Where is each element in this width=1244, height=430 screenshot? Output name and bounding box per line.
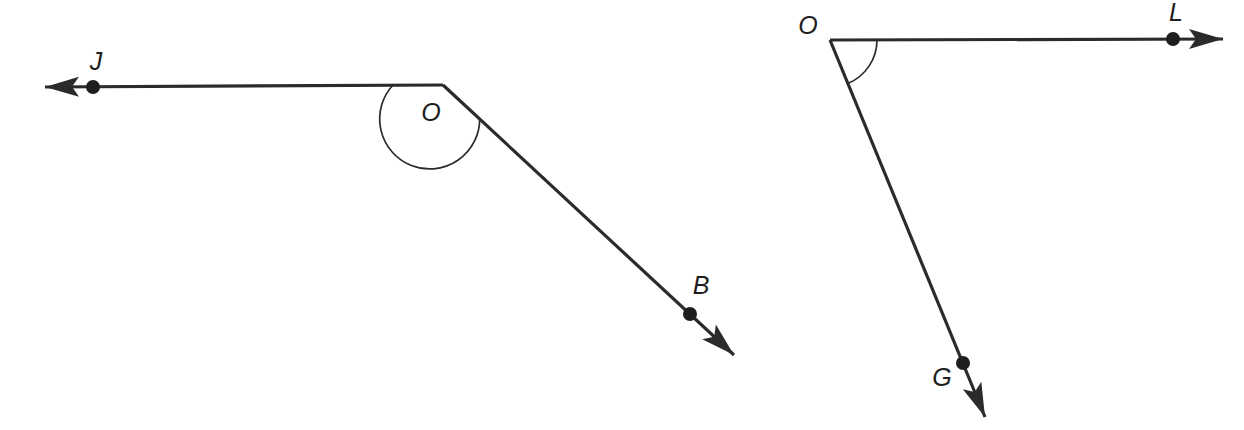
ray-OL-line [830,39,1223,40]
point-label-L: L [1169,0,1183,26]
point-label-J: J [89,47,103,75]
angle-diagram-figure: J B O L G O [0,0,1244,430]
vertex-label-O-right: O [798,11,817,39]
point-label-G: G [932,363,951,391]
point-dot-L [1166,32,1180,46]
vertex-label-O-left: O [421,98,440,126]
point-dot-B [683,307,697,321]
point-dot-G [956,356,970,370]
figure-background [0,0,1244,430]
point-label-B: B [693,271,710,299]
point-dot-J [86,80,100,94]
ray-OJ-line [45,85,443,87]
